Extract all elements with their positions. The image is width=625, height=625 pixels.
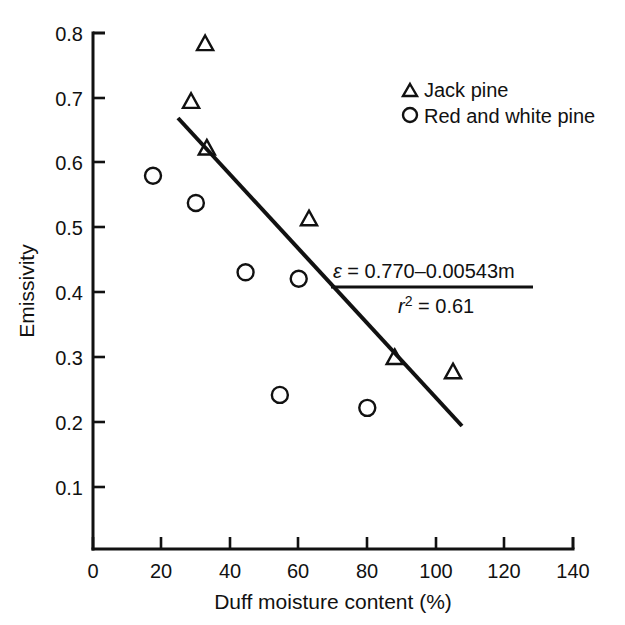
y-axis-title: Emissivity bbox=[15, 244, 38, 338]
x-tick-label: 80 bbox=[356, 560, 378, 582]
x-tick-label: 100 bbox=[419, 560, 452, 582]
x-tick-label: 120 bbox=[487, 560, 520, 582]
x-tick-label: 40 bbox=[219, 560, 241, 582]
data-point-circle bbox=[145, 168, 161, 184]
data-point-triangle bbox=[301, 211, 317, 226]
y-tick-label: 0.7 bbox=[55, 88, 83, 110]
legend-triangle-icon bbox=[403, 84, 417, 96]
y-tick-label: 0.4 bbox=[55, 282, 83, 304]
y-tick-label: 0.5 bbox=[55, 217, 83, 239]
x-tick-label: 140 bbox=[556, 560, 589, 582]
data-point-triangle bbox=[183, 93, 199, 108]
data-point-circle bbox=[238, 264, 254, 280]
data-point-circle bbox=[291, 271, 307, 287]
x-tick-label: 20 bbox=[150, 560, 172, 582]
data-point-triangle bbox=[197, 36, 213, 51]
x-ticks-group bbox=[93, 537, 573, 549]
legend-label-red-white-pine: Red and white pine bbox=[424, 105, 595, 127]
y-tick-label: 0.8 bbox=[55, 23, 83, 45]
y-tick-label: 0.2 bbox=[55, 412, 83, 434]
x-tick-labels-group: 0 20 40 60 80 100 120 140 bbox=[87, 560, 589, 582]
x-tick-label: 0 bbox=[87, 560, 98, 582]
r-exponent: 2 bbox=[405, 293, 413, 309]
y-tick-label: 0.6 bbox=[55, 152, 83, 174]
data-point-circle bbox=[359, 400, 375, 416]
legend-label-jack-pine: Jack pine bbox=[424, 79, 509, 101]
equation-body: = 0.770–0.00543m bbox=[342, 260, 515, 282]
x-axis-title: Duff moisture content (%) bbox=[214, 590, 452, 613]
equation-annotation: ε = 0.770–0.00543m r2 = 0.61 bbox=[331, 260, 533, 317]
scatter-chart-figure: 0.8 0.7 0.6 0.5 0.4 0.3 0.2 0.1 0 20 40 … bbox=[0, 0, 625, 625]
r-squared-text: r2 = 0.61 bbox=[398, 293, 474, 317]
legend-circle-icon bbox=[403, 108, 417, 122]
y-ticks-group bbox=[93, 33, 105, 487]
chart-canvas: 0.8 0.7 0.6 0.5 0.4 0.3 0.2 0.1 0 20 40 … bbox=[0, 0, 625, 625]
data-point-circle bbox=[272, 387, 288, 403]
r-value: = 0.61 bbox=[412, 295, 474, 317]
x-tick-label: 60 bbox=[287, 560, 309, 582]
legend: Jack pine Red and white pine bbox=[403, 79, 595, 127]
data-point-circle bbox=[188, 195, 204, 211]
data-point-triangle bbox=[445, 364, 461, 379]
y-tick-labels-group: 0.8 0.7 0.6 0.5 0.4 0.3 0.2 0.1 bbox=[55, 23, 83, 499]
equation-text: ε = 0.770–0.00543m bbox=[333, 260, 515, 282]
y-tick-label: 0.1 bbox=[55, 477, 83, 499]
y-tick-label: 0.3 bbox=[55, 347, 83, 369]
